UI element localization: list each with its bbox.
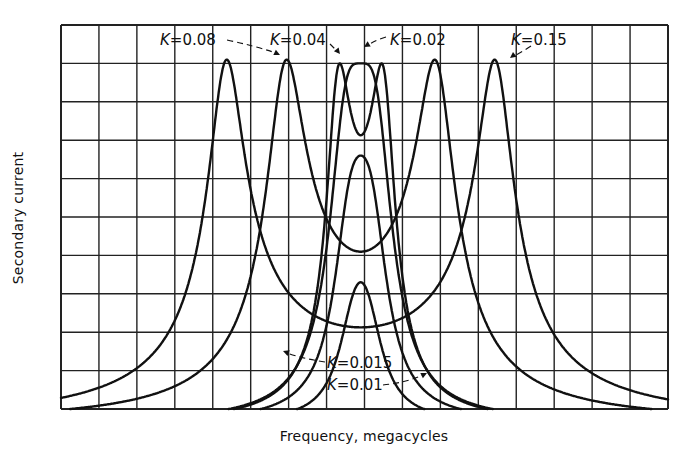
label-k-0-02: K=0.02 <box>390 31 446 49</box>
label-k-0-08: K=0.08 <box>160 31 216 49</box>
arrowhead-icon <box>420 373 427 378</box>
label-k-0-15: K=0.15 <box>511 31 567 49</box>
leader-k-0-08 <box>227 40 276 53</box>
x-axis-label: Frequency, megacycles <box>280 428 449 444</box>
arrowhead-icon <box>334 47 340 54</box>
label-k-0-01: K=0.01 <box>327 376 383 394</box>
coupled-circuit-resonance-chart: K=0.08K=0.04K=0.02K=0.15K=0.015K=0.01 <box>0 0 689 458</box>
leader-k-0-02 <box>368 37 386 45</box>
arrowhead-icon <box>273 50 280 55</box>
grid <box>61 25 668 409</box>
y-axis-label: Secondary current <box>10 152 26 285</box>
label-k-0-04: K=0.04 <box>270 31 326 49</box>
label-k-0-015: K=0.015 <box>327 354 392 372</box>
